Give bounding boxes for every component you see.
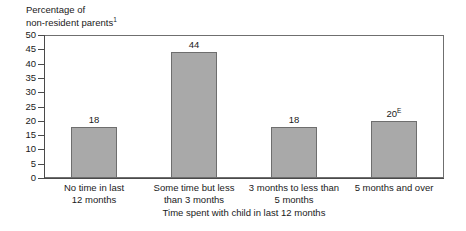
y-axis-tick-label: 20 xyxy=(2,116,36,126)
x-axis-category-label: Some time but lessthan 3 months xyxy=(144,182,244,206)
x-axis-category-line: 5 months xyxy=(274,194,313,205)
bar-value-footnote: E xyxy=(397,107,401,114)
x-axis-category-label: 3 months to less than5 months xyxy=(244,182,344,206)
x-axis-line xyxy=(44,178,444,179)
bar-slot: 20E xyxy=(344,35,444,178)
y-axis-title-line2: non-resident parents xyxy=(26,17,113,28)
y-axis-tick-label: 45 xyxy=(2,44,36,54)
y-axis-title: Percentage of non-resident parents1 xyxy=(26,4,117,29)
bar-series: 18441820E xyxy=(44,35,444,178)
y-axis-tick-label: 15 xyxy=(2,130,36,140)
y-axis-tick-label: 50 xyxy=(2,30,36,40)
y-axis-labels: 05101520253035404550 xyxy=(0,0,36,231)
x-axis-category-line: Some time but less xyxy=(154,182,235,193)
x-axis-category-line: than 3 months xyxy=(164,194,224,205)
x-axis-title: Time spent with child in last 12 months xyxy=(44,207,444,219)
x-axis-category-label: No time in last12 months xyxy=(44,182,144,206)
x-axis-category-line: 5 months and over xyxy=(355,182,434,193)
bar[interactable] xyxy=(171,52,217,178)
x-axis-category-line: No time in last xyxy=(64,182,124,193)
bar[interactable] xyxy=(371,121,417,178)
y-axis-title-footnote: 1 xyxy=(113,15,117,22)
bar-slot: 44 xyxy=(144,35,244,178)
y-axis-tick-label: 0 xyxy=(2,173,36,183)
bar-value-label: 20E xyxy=(387,109,402,119)
bar[interactable] xyxy=(71,127,117,178)
x-axis-category-line: 3 months to less than xyxy=(249,182,339,193)
bar-value-label: 44 xyxy=(189,40,200,50)
y-axis-tick-label: 40 xyxy=(2,59,36,69)
x-axis-category-label: 5 months and over xyxy=(344,182,444,194)
x-axis-category-line: 12 months xyxy=(72,194,116,205)
bar-slot: 18 xyxy=(244,35,344,178)
y-axis-tick-label: 10 xyxy=(2,144,36,154)
y-axis-tick-label: 25 xyxy=(2,102,36,112)
y-axis-tick-label: 35 xyxy=(2,73,36,83)
bar-value-label: 18 xyxy=(289,115,300,125)
bar[interactable] xyxy=(271,127,317,178)
bar-value-label: 18 xyxy=(89,115,100,125)
y-axis-tick-label: 30 xyxy=(2,87,36,97)
bar-slot: 18 xyxy=(44,35,144,178)
y-axis-tick-label: 5 xyxy=(2,159,36,169)
